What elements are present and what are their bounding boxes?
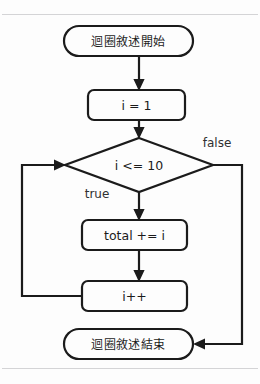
node-init[interactable]: i = 1 [88, 90, 185, 120]
edge-condition-to-accumulate [133, 192, 144, 221]
flowchart-figure: 迴圈敘述開始 i = 1 i <= 10 total += i i++ 迴圈敘述… [0, 0, 260, 384]
edge-label-false: false [203, 136, 232, 150]
node-condition[interactable]: i <= 10 [65, 138, 213, 192]
edge-increment-to-condition [22, 159, 82, 296]
edge-label-true: true [85, 187, 110, 201]
edge-accumulate-to-increment [133, 250, 144, 282]
flowchart-canvas: 迴圈敘述開始 i = 1 i <= 10 total += i i++ 迴圈敘述… [0, 0, 260, 384]
node-init-label: i = 1 [122, 98, 152, 113]
node-condition-label: i <= 10 [115, 158, 163, 173]
arrow-head-icon [193, 338, 205, 349]
node-accumulate-label: total += i [104, 228, 165, 243]
node-end-label: 迴圈敘述結束 [91, 337, 165, 352]
node-increment[interactable]: i++ [82, 281, 187, 311]
edge-init-to-condition [133, 120, 144, 139]
node-start[interactable]: 迴圈敘述開始 [64, 26, 193, 56]
node-accumulate[interactable]: total += i [82, 220, 187, 250]
node-increment-label: i++ [122, 289, 146, 304]
edge-condition-to-end [193, 165, 242, 350]
node-end[interactable]: 迴圈敘述結束 [64, 329, 193, 359]
edge-start-to-init [133, 56, 144, 91]
node-start-label: 迴圈敘述開始 [91, 34, 165, 49]
